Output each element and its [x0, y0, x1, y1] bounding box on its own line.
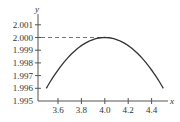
y-tick-label: 1.995 [13, 96, 34, 106]
x-tick-label: 3.8 [76, 105, 88, 115]
y-axis-label: y [34, 4, 39, 14]
x-tick-label: 3.6 [52, 105, 64, 115]
y-tick-label: 1.999 [13, 45, 34, 55]
y-tick-label: 2.001 [13, 20, 33, 30]
chart: 3.63.84.04.24.42.0012.0001.9991.9981.997… [0, 0, 180, 122]
data-curve [46, 38, 163, 89]
x-axis-label: x [169, 96, 174, 106]
axes [38, 14, 168, 101]
y-tick-label: 1.996 [13, 83, 34, 93]
x-tick-label: 4.0 [99, 105, 111, 115]
y-tick-label: 1.998 [13, 58, 34, 68]
y-tick-label: 2.000 [13, 33, 34, 43]
x-tick-label: 4.4 [146, 105, 158, 115]
y-tick-label: 1.997 [13, 71, 34, 81]
x-tick-label: 4.2 [123, 105, 134, 115]
